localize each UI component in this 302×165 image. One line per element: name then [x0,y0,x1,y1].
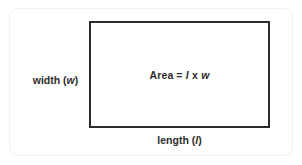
width-label-text-end: ) [75,74,79,86]
length-label-text: length ( [157,134,195,146]
diagram-card: Area =lxw width (w) length (l) [9,8,293,156]
area-formula-operator: x [192,69,198,81]
length-label-text-end: ) [198,134,202,146]
width-label-variable: w [67,74,75,86]
width-label: width (w) [22,70,89,90]
area-formula-lead: Area = [150,69,183,81]
length-label: length (l) [89,130,270,150]
area-formula-variable-width: w [201,69,209,81]
area-formula-variable-length: l [186,69,189,81]
area-formula-label: Area =lxw [91,23,268,126]
width-label-text: width ( [33,74,67,86]
rectangle-shape: Area =lxw [89,21,270,128]
